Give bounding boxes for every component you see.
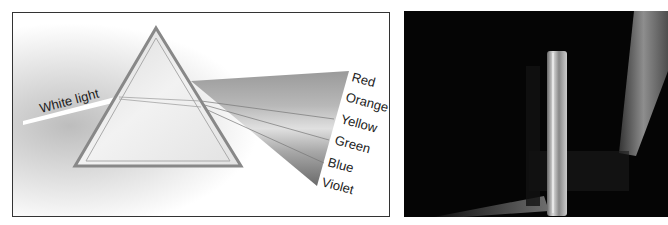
prism-diagram: White light Red Orange Yellow Green Blue… xyxy=(13,13,390,217)
glass-prism xyxy=(547,51,567,216)
prism-photo-panel xyxy=(404,11,668,217)
prism-photo xyxy=(404,11,668,217)
prism-diagram-panel: White light Red Orange Yellow Green Blue… xyxy=(12,12,390,217)
